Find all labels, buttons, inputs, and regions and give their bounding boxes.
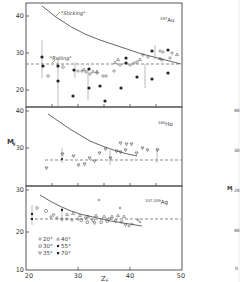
nucleus-labels: 197Au 165Ho 107,109Ag (145, 16, 175, 206)
middle-panel-error-bars (62, 148, 157, 165)
svg-text:40: 40 (234, 108, 240, 113)
middle-panel-filled-points (61, 158, 63, 160)
svg-text:30: 30 (16, 186, 24, 194)
svg-text:"Sticking": "Sticking" (61, 10, 86, 17)
top-panel-error-bars (42, 40, 155, 108)
y-ticks (26, 16, 156, 270)
legend-item-55: 55° (57, 243, 71, 249)
svg-text:35°: 35° (43, 250, 53, 256)
right-partial-figure: 40 30 20 40 0 M F (227, 0, 240, 282)
filled-square-icon (57, 252, 59, 254)
open-triangle-icon (57, 238, 60, 241)
svg-text:55°: 55° (61, 243, 71, 249)
svg-text:F: F (13, 142, 16, 147)
svg-text:197Au: 197Au (160, 16, 175, 23)
svg-text:40°: 40° (61, 236, 71, 242)
svg-text:30: 30 (74, 272, 82, 280)
svg-text:70°: 70° (61, 250, 71, 256)
open-square-icon (39, 245, 41, 247)
legend-item-30: 30° (39, 243, 53, 249)
legend-item-40: 40° (57, 236, 71, 242)
sticking-curve (40, 195, 142, 226)
svg-text:30°: 30° (43, 243, 53, 249)
filled-circle-icon (57, 245, 59, 247)
svg-text:20: 20 (234, 188, 240, 193)
x-axis-label: Z F (101, 275, 109, 282)
svg-text:10: 10 (16, 266, 24, 274)
svg-text:30: 30 (16, 144, 24, 152)
svg-text:40: 40 (16, 12, 24, 20)
legend-item-35: 35° (39, 250, 53, 256)
y-axis-label: M F (7, 138, 16, 147)
svg-text:0: 0 (235, 266, 238, 271)
sticking-curve (48, 114, 137, 156)
y-tick-labels: 40 30 20 40 30 30 20 10 (16, 12, 24, 274)
svg-text:30: 30 (16, 49, 24, 57)
open-triangle-down-icon (39, 252, 42, 255)
top-panel-annotations: "Sticking" "Rolling" (50, 10, 86, 62)
open-circle-icon (39, 238, 41, 240)
legend-item-70: 70° (57, 250, 71, 256)
svg-text:107,109Ag: 107,109Ag (145, 198, 168, 206)
bottom-panel-points (36, 199, 141, 227)
svg-text:"Rolling": "Rolling" (50, 55, 72, 62)
svg-text:20: 20 (16, 86, 24, 94)
legend-item-20: 20° (39, 236, 53, 242)
svg-text:165Ho: 165Ho (158, 120, 173, 127)
svg-text:20°: 20° (43, 236, 53, 242)
plot-frames (26, 3, 182, 270)
svg-text:F: F (106, 278, 109, 282)
legend: 20° 40° 30° 55° 35° 70° (39, 236, 71, 256)
svg-text:40: 40 (234, 228, 240, 233)
svg-text:20: 20 (25, 272, 33, 280)
svg-text:30: 30 (234, 148, 240, 153)
figure: 40 30 20 40 30 30 20 10 20 30 40 50 M F … (0, 0, 240, 282)
svg-text:F: F (231, 189, 233, 193)
svg-text:20: 20 (16, 228, 24, 236)
bottom-panel-error-bars (32, 205, 62, 225)
svg-text:40: 40 (16, 107, 24, 115)
svg-text:40: 40 (126, 272, 134, 280)
svg-text:50: 50 (177, 272, 185, 280)
